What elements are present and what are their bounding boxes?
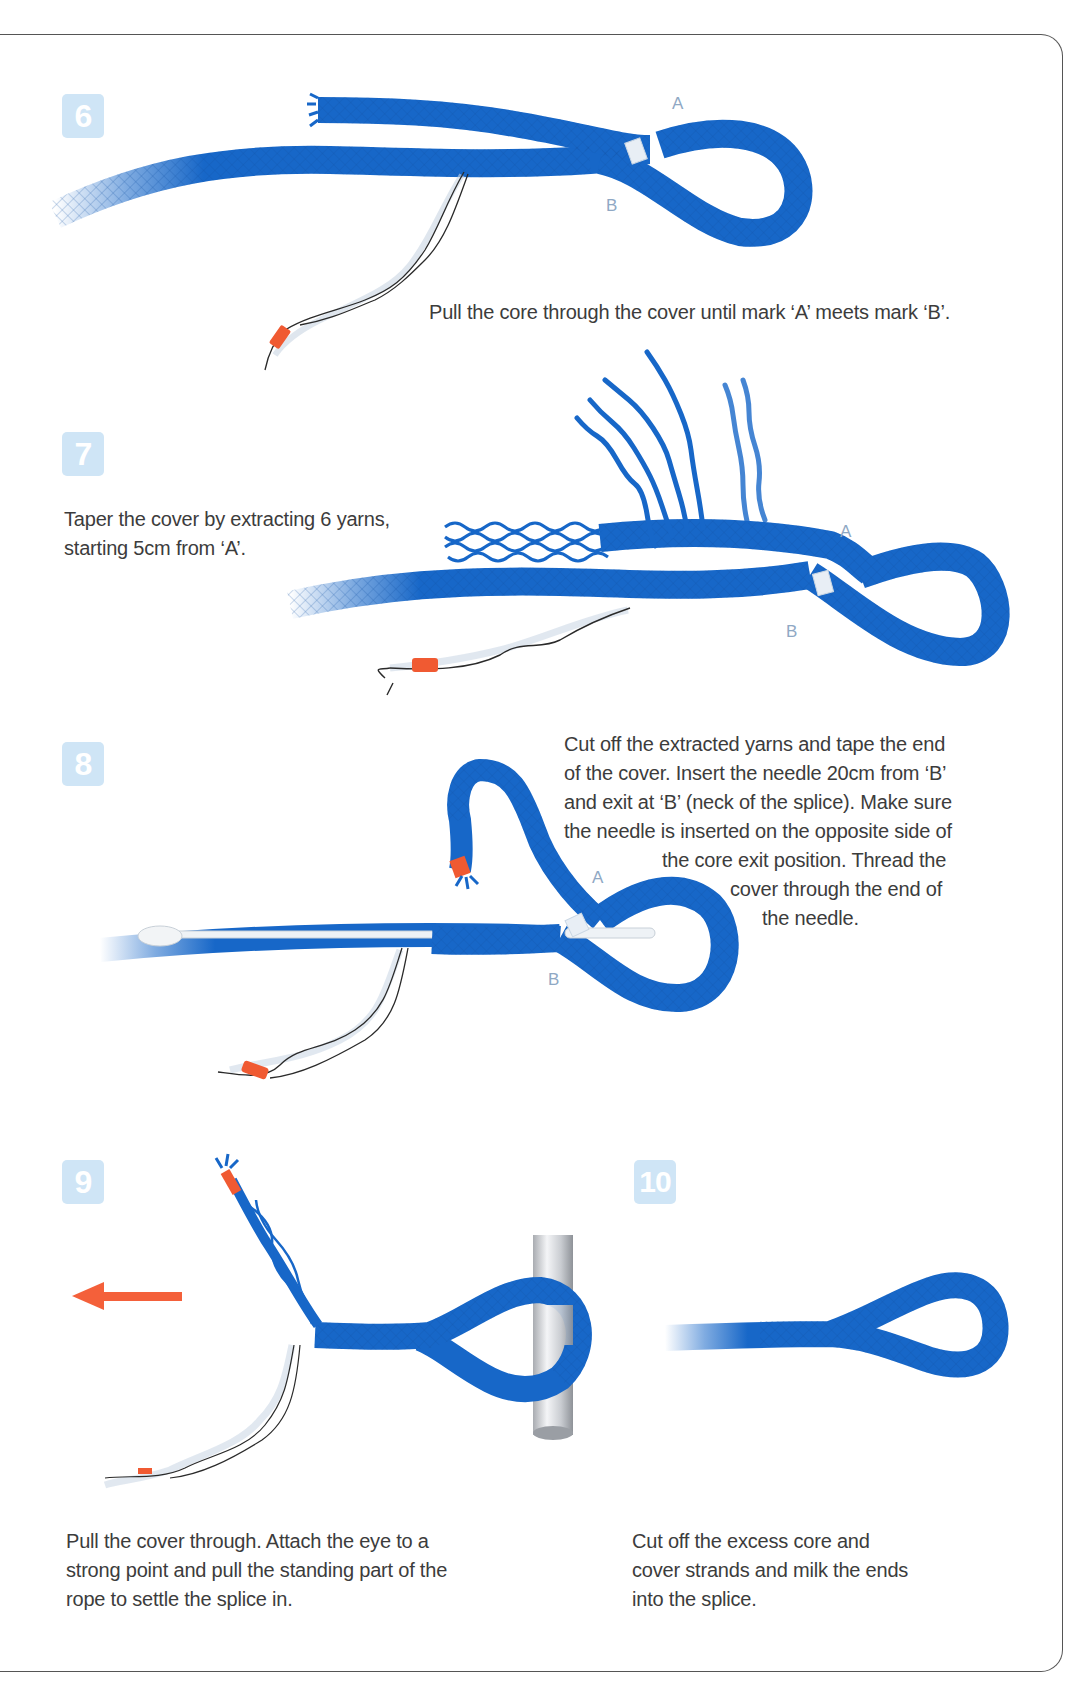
step7-mark-a: A <box>840 522 851 542</box>
step9-instruction-line2: strong point and pull the standing part … <box>66 1556 447 1585</box>
step-badge-10: 10 <box>634 1160 676 1204</box>
pull-arrow-left-icon <box>72 1282 182 1310</box>
step8-instruction-line2: of the cover. Insert the needle 20cm fro… <box>564 759 946 788</box>
step9-instruction-line1: Pull the cover through. Attach the eye t… <box>66 1527 429 1556</box>
step8-mark-a: A <box>592 868 603 888</box>
step-badge-6: 6 <box>62 94 104 138</box>
step8-instruction-line5: the core exit position. Thread the <box>662 846 946 875</box>
step7-instruction-line2: starting 5cm from ‘A’. <box>64 534 246 563</box>
step10-instruction-line3: into the splice. <box>632 1585 757 1614</box>
step8-instruction-line4: the needle is inserted on the opposite s… <box>564 817 952 846</box>
step8-mark-b: B <box>548 970 559 990</box>
step10-instruction-line2: cover strands and milk the ends <box>632 1556 908 1585</box>
step8-instruction-line7: the needle. <box>762 904 859 933</box>
step10-illustration <box>665 1285 996 1364</box>
step-badge-8: 8 <box>62 742 104 786</box>
step8-instruction-line1: Cut off the extracted yarns and tape the… <box>564 730 945 759</box>
step9-instruction-line3: rope to settle the splice in. <box>66 1585 293 1614</box>
step9-illustration <box>72 1154 579 1485</box>
step7-instruction-line1: Taper the cover by extracting 6 yarns, <box>64 505 390 534</box>
step10-instruction-line1: Cut off the excess core and <box>632 1527 870 1556</box>
step7-mark-b: B <box>786 622 797 642</box>
step-badge-9: 9 <box>62 1160 104 1204</box>
step6-mark-b: B <box>606 196 617 216</box>
step6-mark-a: A <box>672 94 683 114</box>
step6-illustration <box>55 94 798 370</box>
step8-instruction-line3: and exit at ‘B’ (neck of the splice). Ma… <box>564 788 952 817</box>
step8-instruction-line6: cover through the end of <box>730 875 942 904</box>
step7-illustration <box>290 352 996 695</box>
step6-instruction: Pull the core through the cover until ma… <box>429 298 950 327</box>
step-badge-7: 7 <box>62 432 104 476</box>
